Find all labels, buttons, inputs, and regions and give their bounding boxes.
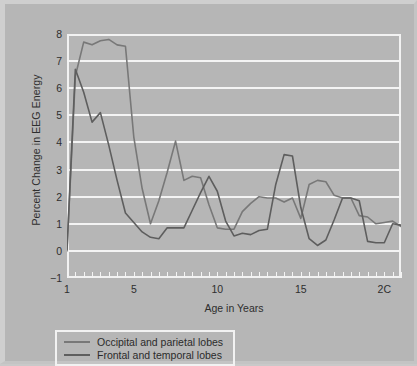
y-tick-label: 4 — [56, 136, 62, 148]
legend-label: Frontal and temporal lobes — [97, 349, 222, 361]
series-line — [67, 39, 401, 250]
y-tick-label: 6 — [56, 82, 62, 94]
x-tick-label: 5 — [131, 283, 137, 295]
y-tick-label: 8 — [56, 28, 62, 40]
series-line — [67, 69, 401, 249]
x-tick-label: 10 — [211, 283, 223, 295]
x-tick-label: 15 — [295, 283, 307, 295]
y-tick-label: −1 — [50, 272, 62, 284]
x-tick-label: 1 — [64, 283, 70, 295]
x-minor-tick — [401, 272, 402, 278]
y-tick-label: 1 — [56, 218, 62, 230]
y-tick-label: 0 — [56, 245, 62, 257]
plot-area: −1012345678 1510152C — [67, 34, 401, 278]
y-axis-title: Percent Change in EEG Energy — [30, 40, 42, 260]
y-tick-label: 2 — [56, 191, 62, 203]
x-axis-title: Age in Years — [67, 302, 401, 314]
legend-label: Occipital and parietal lobes — [97, 336, 223, 348]
legend-line-swatch — [64, 354, 90, 356]
y-tick-label: 7 — [56, 55, 62, 67]
legend-item[interactable]: Frontal and temporal lobes — [64, 348, 223, 361]
legend-line-swatch — [64, 341, 90, 343]
y-tick-label: 5 — [56, 109, 62, 121]
x-tick-label: 2C — [378, 283, 391, 295]
legend-item[interactable]: Occipital and parietal lobes — [64, 335, 223, 348]
y-tick-label: 3 — [56, 164, 62, 176]
data-lines — [67, 34, 401, 278]
chart-legend: Occipital and parietal lobesFrontal and … — [55, 330, 235, 366]
